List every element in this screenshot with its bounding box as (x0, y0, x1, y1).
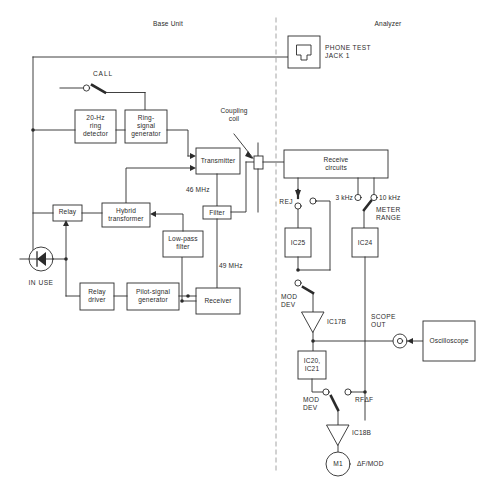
annotation-scope-out: SCOPE OUT (371, 313, 396, 329)
block-ring-detector-label: 20-Hz ring detector (83, 114, 108, 138)
block-transmitter-label: Transmitter (201, 157, 236, 165)
block-low-pass-filter-label: Low-pass filter (168, 235, 197, 251)
diagram-canvas: Base Unit Analyzer CALL 20-Hz ring detec… (0, 0, 489, 484)
annotation-46mhz: 46 MHz (186, 186, 210, 194)
block-receiver-label: Receiver (204, 297, 231, 305)
annotation-meter-range: METER RANGE (376, 206, 401, 222)
block-ic18b-label: IC18B (352, 429, 371, 437)
annotation-rf-delta-f: RFΔF (355, 396, 373, 404)
annotation-meter-function: ΔF/MOD (357, 460, 384, 468)
block-phone-test-jack-label: PHONE TEST JACK 1 (325, 44, 371, 60)
annotation-mod-dev-lower: MOD DEV (303, 396, 319, 412)
block-hybrid-transformer-label: Hybrid transformer (108, 207, 143, 223)
call-switch-label: CALL (93, 70, 113, 78)
block-pilot-signal-generator-label: Pilot-signal generator (136, 288, 170, 304)
annotation-10khz: 10 kHz (379, 194, 400, 202)
annotation-mod-dev-upper: MOD DEV (281, 293, 297, 309)
block-filter-label: Filter (209, 209, 225, 217)
block-relay-label: Relay (59, 208, 77, 216)
block-ic24-label: IC24 (358, 239, 373, 247)
block-relay-driver-label: Relay driver (88, 288, 106, 304)
block-meter-m1-label: M1 (333, 460, 342, 468)
schematic-lines (0, 0, 489, 484)
annotation-in-use: IN USE (29, 279, 54, 287)
annotation-49mhz: 49 MHz (219, 262, 243, 270)
annotation-3khz: 3 kHz (335, 194, 353, 202)
block-receive-circuits-label: Receive circuits (324, 156, 349, 172)
block-ic20-ic21-label: IC20, IC21 (304, 357, 321, 373)
annotation-rej: REJ (279, 198, 293, 206)
block-oscilloscope-label: Oscilloscope (429, 337, 468, 345)
block-ring-signal-generator-label: Ring- signal generator (131, 114, 161, 138)
annotation-coupling-coil: Coupling coil (220, 107, 247, 123)
section-label-base-unit: Base Unit (153, 20, 183, 28)
block-ic17b-label: IC17B (327, 318, 346, 326)
section-label-analyzer: Analyzer (375, 20, 402, 28)
block-ic25-label: IC25 (291, 239, 306, 247)
